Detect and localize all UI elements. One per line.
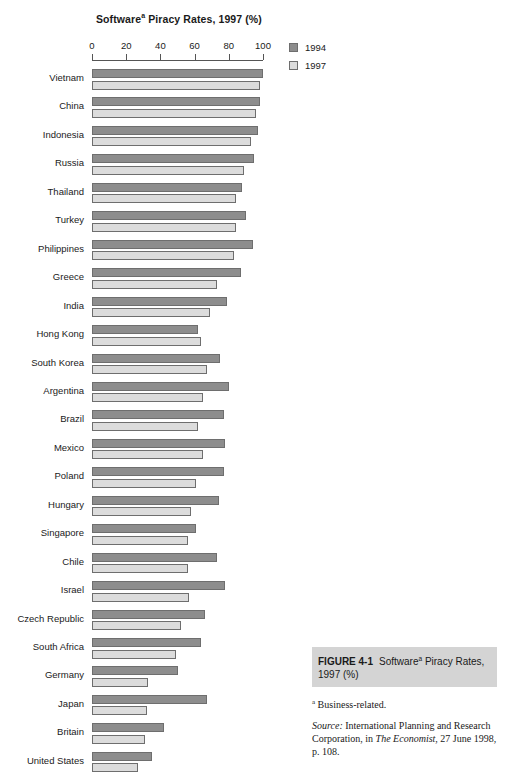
- category-label: Chile: [0, 556, 84, 567]
- bar-1994: [92, 382, 229, 391]
- bar-1997: [92, 621, 181, 630]
- bar-group: [92, 581, 225, 602]
- bar-group: [92, 325, 201, 346]
- x-axis-tick: [229, 54, 230, 60]
- bar-group: [92, 723, 164, 744]
- bar-1994: [92, 666, 178, 675]
- bar-1994: [92, 69, 263, 78]
- figure-number: FIGURE 4-1: [318, 656, 373, 667]
- category-label: Thailand: [0, 186, 84, 197]
- bar-group: [92, 154, 254, 175]
- bar-1997: [92, 337, 201, 346]
- bar-1997: [92, 678, 148, 687]
- chart-row: Hungary: [0, 495, 511, 524]
- bar-group: [92, 382, 229, 403]
- bar-1997: [92, 422, 198, 431]
- category-label: Czech Republic: [0, 613, 84, 624]
- bar-1994: [92, 410, 224, 419]
- bar-1994: [92, 553, 217, 562]
- bar-group: [92, 240, 253, 261]
- bar-1994: [92, 97, 260, 106]
- category-label: Hong Kong: [0, 328, 84, 339]
- bar-group: [92, 496, 219, 517]
- bar-1994: [92, 154, 254, 163]
- bar-1997: [92, 735, 145, 744]
- x-axis-tick-label: 0: [89, 40, 94, 51]
- bar-group: [92, 297, 227, 318]
- chart-row: Singapore: [0, 523, 511, 552]
- chart-row: China: [0, 96, 511, 125]
- x-axis-tick-label: 60: [189, 40, 200, 51]
- bar-1997: [92, 166, 244, 175]
- source-publication: The Economist: [376, 733, 436, 744]
- source-label: Source:: [312, 720, 343, 731]
- x-axis-tick: [263, 54, 264, 60]
- x-axis: 020406080100: [92, 40, 263, 66]
- bar-group: [92, 695, 207, 716]
- category-label: Vietnam: [0, 72, 84, 83]
- bar-group: [92, 354, 220, 375]
- category-label: Poland: [0, 470, 84, 481]
- category-label: Indonesia: [0, 129, 84, 140]
- caption-footnote: a Business-related.: [312, 696, 497, 711]
- bar-1997: [92, 479, 196, 488]
- chart-title: Softwarea Piracy Rates, 1997 (%): [96, 12, 262, 25]
- bar-group: [92, 211, 246, 232]
- chart-row: Mexico: [0, 438, 511, 467]
- category-label: Greece: [0, 271, 84, 282]
- bar-1994: [92, 496, 219, 505]
- bar-1997: [92, 763, 138, 772]
- bar-1994: [92, 126, 258, 135]
- bar-1997: [92, 223, 236, 232]
- x-axis-tick: [160, 54, 161, 60]
- bar-group: [92, 97, 260, 118]
- chart-row: Chile: [0, 552, 511, 581]
- bar-1994: [92, 354, 220, 363]
- bar-1994: [92, 211, 246, 220]
- chart-title-rest: Piracy Rates, 1997 (%): [145, 13, 262, 25]
- bar-1994: [92, 325, 198, 334]
- chart-row: Philippines: [0, 239, 511, 268]
- chart-row: Argentina: [0, 381, 511, 410]
- bar-group: [92, 610, 205, 631]
- bar-1997: [92, 593, 189, 602]
- chart-title-main: Software: [96, 13, 141, 25]
- category-label: Israel: [0, 584, 84, 595]
- category-label: Mexico: [0, 442, 84, 453]
- category-label: South Africa: [0, 641, 84, 652]
- chart-row: Hong Kong: [0, 324, 511, 353]
- bar-group: [92, 752, 152, 773]
- bar-1997: [92, 280, 217, 289]
- bar-group: [92, 666, 178, 687]
- bar-group: [92, 553, 217, 574]
- x-axis-tick-label: 80: [224, 40, 235, 51]
- bar-1994: [92, 268, 241, 277]
- chart-row: Russia: [0, 153, 511, 182]
- caption-header: FIGURE 4-1Softwarea Piracy Rates, 1997 (…: [312, 647, 497, 687]
- x-axis-tick-label: 40: [155, 40, 166, 51]
- category-label: United States: [0, 755, 84, 766]
- category-label: Hungary: [0, 499, 84, 510]
- category-label: Britain: [0, 726, 84, 737]
- legend-item[interactable]: 1994: [289, 40, 326, 54]
- bar-1997: [92, 365, 207, 374]
- bar-1997: [92, 706, 147, 715]
- x-axis-tick: [92, 54, 93, 60]
- figure-caption: FIGURE 4-1Softwarea Piracy Rates, 1997 (…: [312, 647, 497, 758]
- footnote-text: Business-related.: [315, 700, 386, 711]
- x-axis-tick: [195, 54, 196, 60]
- bar-1994: [92, 638, 201, 647]
- chart-row: Israel: [0, 580, 511, 609]
- bar-1997: [92, 650, 176, 659]
- category-label: Russia: [0, 157, 84, 168]
- category-label: Philippines: [0, 243, 84, 254]
- chart-row: South Korea: [0, 353, 511, 382]
- bar-1997: [92, 393, 203, 402]
- bar-1997: [92, 81, 260, 90]
- category-label: Argentina: [0, 385, 84, 396]
- chart-row: Brazil: [0, 409, 511, 438]
- bar-1994: [92, 610, 205, 619]
- bar-1994: [92, 524, 196, 533]
- bar-group: [92, 126, 258, 147]
- chart-row: Czech Republic: [0, 609, 511, 638]
